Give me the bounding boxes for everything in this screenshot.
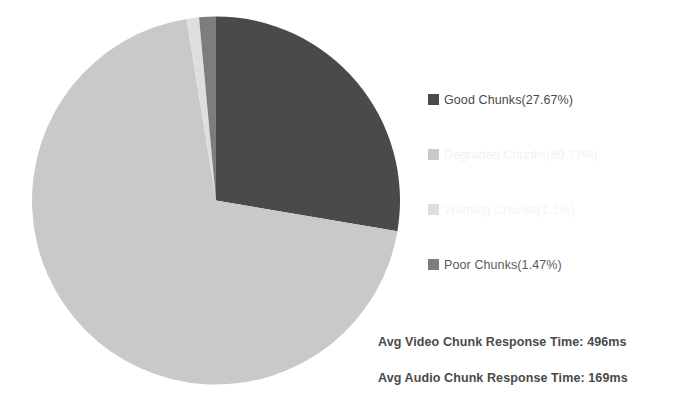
legend-swatch-poor-chunks [428, 259, 439, 270]
chart-annotations: Avg Video Chunk Response Time: 496ms Avg… [378, 335, 678, 407]
pie-chart-graphic [32, 16, 400, 385]
legend-item-poor-chunks[interactable]: Poor Chunks(1.47%) [428, 255, 672, 274]
pie-slice-group [32, 17, 400, 385]
legend-label-poor-chunks: Poor Chunks(1.47%) [444, 258, 562, 272]
legend-item-warning-chunks[interactable]: Warning Chunks(1.1%) [428, 200, 672, 219]
legend-item-good-chunks[interactable]: Good Chunks(27.67%) [428, 90, 672, 109]
avg-video-chunk-response-time: Avg Video Chunk Response Time: 496ms [378, 335, 678, 349]
legend-swatch-warning-chunks [428, 204, 439, 215]
pie-slice-good-chunks[interactable] [216, 17, 400, 232]
pie-svg [32, 16, 400, 385]
legend-label-degraded-chunks: Degraded Chunks(69.77%) [444, 148, 598, 162]
legend-swatch-good-chunks [428, 94, 439, 105]
legend-label-warning-chunks: Warning Chunks(1.1%) [444, 203, 575, 217]
legend-label-good-chunks: Good Chunks(27.67%) [444, 93, 573, 107]
avg-audio-chunk-response-time: Avg Audio Chunk Response Time: 169ms [378, 371, 678, 385]
chart-legend: Good Chunks(27.67%) Degraded Chunks(69.7… [428, 90, 672, 310]
legend-swatch-degraded-chunks [428, 149, 439, 160]
legend-item-degraded-chunks[interactable]: Degraded Chunks(69.77%) [428, 145, 672, 164]
pie-chart-figure: Good Chunks(27.67%) Degraded Chunks(69.7… [0, 0, 680, 414]
